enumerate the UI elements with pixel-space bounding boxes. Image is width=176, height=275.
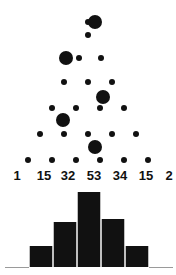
peg-dot [133,131,139,137]
peg-dot [49,157,55,163]
peg-dot [61,131,67,137]
bin-count-label: 2 [165,168,172,184]
peg-dot [109,79,115,85]
galton-board-figure: 115325334152 [0,0,176,275]
peg-dot [25,157,31,163]
peg-dot [49,105,55,111]
bin-count-label: 53 [87,168,101,184]
bin-count-label: 15 [139,168,153,184]
peg-dot [97,157,103,163]
histogram-bar [77,192,101,267]
histogram-bar [29,246,53,267]
bin-count-label: 1 [13,168,20,184]
peg-dot [73,105,79,111]
peg-dot [109,131,115,137]
peg-dot [61,79,67,85]
histogram [0,186,176,270]
bin-count-label-row: 115325334152 [0,168,176,186]
ball-dot [96,90,110,104]
ball-dot [88,140,102,154]
peg-dot [85,79,91,85]
peg-dot [98,55,104,61]
peg-dot [85,32,91,38]
ball-dot [59,51,73,65]
ball-dot [88,15,102,29]
peg-dot [37,131,43,137]
bin-count-label: 32 [61,168,75,184]
histogram-bar [53,222,77,267]
peg-board [0,0,176,170]
axis-baseline-segment [5,267,29,268]
peg-dot [76,55,82,61]
histogram-bar [125,246,149,267]
peg-dot [85,131,91,137]
peg-dot [97,105,103,111]
ball-dot [56,113,70,127]
axis-baseline-segment [149,267,173,268]
peg-dot [73,157,79,163]
peg-dot [145,157,151,163]
peg-dot [121,157,127,163]
bin-count-label: 34 [113,168,127,184]
peg-dot [121,105,127,111]
bin-count-label: 15 [37,168,51,184]
histogram-bar [101,219,125,267]
